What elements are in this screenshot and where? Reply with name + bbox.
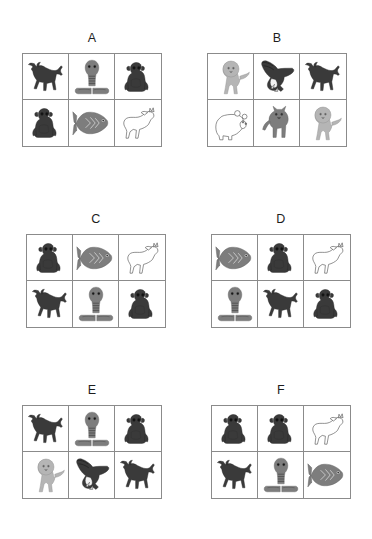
fish-icon	[306, 455, 348, 495]
cell-monkey[interactable]	[115, 54, 161, 100]
cell-cobra[interactable]	[73, 281, 119, 327]
cell-horse[interactable]	[304, 406, 350, 452]
cobra-icon	[260, 455, 302, 495]
bull-icon	[260, 284, 302, 324]
cell-monkey[interactable]	[304, 281, 350, 327]
cell-bull[interactable]	[258, 281, 304, 327]
cell-bull[interactable]	[23, 406, 69, 452]
figure-canvas: A B	[0, 0, 372, 539]
cell-bear[interactable]	[208, 100, 254, 146]
cell-eagle[interactable]	[254, 54, 300, 100]
cell-fish[interactable]	[212, 235, 258, 281]
panel-label-c: C	[26, 212, 166, 226]
animal-grid-d	[211, 234, 351, 328]
monkey-icon	[260, 409, 302, 449]
fish-icon	[214, 238, 256, 278]
cell-bull[interactable]	[300, 54, 346, 100]
cell-lion[interactable]	[23, 452, 69, 498]
bear-icon	[210, 103, 252, 143]
monkey-icon	[25, 103, 67, 143]
cell-monkey[interactable]	[258, 235, 304, 281]
monkey-icon	[214, 409, 256, 449]
cobra-icon	[71, 409, 113, 449]
horse-icon	[306, 409, 348, 449]
bull-icon	[29, 284, 71, 324]
cell-fish[interactable]	[304, 452, 350, 498]
animal-grid-e	[22, 405, 162, 499]
cell-cobra[interactable]	[258, 452, 304, 498]
panel-label-e: E	[22, 383, 162, 397]
panel-label-f: F	[211, 383, 351, 397]
cell-bull[interactable]	[27, 281, 73, 327]
wolf-icon	[256, 103, 298, 143]
panel-label-a: A	[22, 31, 162, 45]
monkey-icon	[29, 238, 71, 278]
monkey-icon	[117, 57, 159, 97]
cell-bull[interactable]	[115, 452, 161, 498]
cobra-icon	[75, 284, 117, 324]
fish-icon	[71, 103, 113, 143]
cell-horse[interactable]	[304, 235, 350, 281]
bull-icon	[25, 409, 67, 449]
bull-icon	[302, 57, 344, 97]
horse-icon	[306, 238, 348, 278]
panel-label-b: B	[207, 31, 347, 45]
animal-grid-a	[22, 53, 162, 147]
monkey-icon	[121, 284, 163, 324]
animal-grid-b	[207, 53, 347, 147]
cell-monkey[interactable]	[23, 100, 69, 146]
horse-icon	[117, 103, 159, 143]
cell-lion[interactable]	[208, 54, 254, 100]
cell-horse[interactable]	[115, 100, 161, 146]
cell-horse[interactable]	[119, 235, 165, 281]
cobra-icon	[71, 57, 113, 97]
cell-cobra[interactable]	[69, 406, 115, 452]
bull-icon	[117, 455, 159, 495]
animal-grid-f	[211, 405, 351, 499]
cell-monkey[interactable]	[258, 406, 304, 452]
fish-icon	[75, 238, 117, 278]
bull-icon	[214, 455, 256, 495]
cell-cobra[interactable]	[69, 54, 115, 100]
lion-icon	[25, 455, 67, 495]
cell-eagle[interactable]	[69, 452, 115, 498]
cell-fish[interactable]	[69, 100, 115, 146]
eagle-icon	[256, 57, 298, 97]
cell-monkey[interactable]	[27, 235, 73, 281]
cell-wolf[interactable]	[254, 100, 300, 146]
animal-grid-c	[26, 234, 166, 328]
monkey-icon	[306, 284, 348, 324]
cobra-icon	[214, 284, 256, 324]
cell-monkey[interactable]	[212, 406, 258, 452]
cell-monkey[interactable]	[119, 281, 165, 327]
eagle-icon	[71, 455, 113, 495]
monkey-icon	[117, 409, 159, 449]
cell-cobra[interactable]	[212, 281, 258, 327]
horse-icon	[121, 238, 163, 278]
monkey-icon	[260, 238, 302, 278]
cell-monkey[interactable]	[115, 406, 161, 452]
panel-label-d: D	[211, 212, 351, 226]
cell-bull[interactable]	[23, 54, 69, 100]
cell-lion[interactable]	[300, 100, 346, 146]
bull-icon	[25, 57, 67, 97]
cell-bull[interactable]	[212, 452, 258, 498]
lion-icon	[302, 103, 344, 143]
lion-icon	[210, 57, 252, 97]
cell-fish[interactable]	[73, 235, 119, 281]
